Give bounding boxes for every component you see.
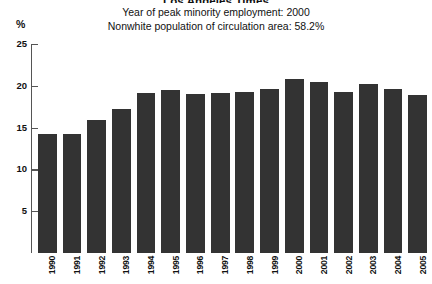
plot-area: 510152025 bbox=[31, 44, 430, 253]
bar-slot bbox=[35, 44, 60, 253]
x-axis-label-1993: 1993 bbox=[121, 256, 131, 274]
bar-1998 bbox=[235, 92, 254, 253]
bar-1997 bbox=[211, 93, 230, 253]
bar-slot bbox=[60, 44, 85, 253]
bar-slot bbox=[208, 44, 233, 253]
bar-slot bbox=[109, 44, 134, 253]
bar-1990 bbox=[38, 134, 57, 253]
x-axis-label-1992: 1992 bbox=[97, 256, 107, 274]
y-tick-label: 15 bbox=[16, 122, 27, 133]
x-axis-label-2001: 2001 bbox=[319, 256, 329, 274]
x-axis-label-1994: 1994 bbox=[146, 256, 156, 274]
bar-slot bbox=[158, 44, 183, 253]
y-tick-label: 20 bbox=[16, 80, 27, 91]
bar-1993 bbox=[112, 109, 131, 253]
x-axis-label-1999: 1999 bbox=[270, 256, 280, 274]
bar-slot bbox=[381, 44, 406, 253]
x-label-slot: 2001 bbox=[307, 254, 332, 284]
bar-slot bbox=[282, 44, 307, 253]
bar-slot bbox=[307, 44, 332, 253]
y-tick-label: 5 bbox=[22, 205, 27, 216]
x-label-slot: 2002 bbox=[331, 254, 356, 284]
x-label-slot: 1990 bbox=[35, 254, 60, 284]
bar-2000 bbox=[285, 79, 304, 253]
x-axis-label-1997: 1997 bbox=[220, 256, 230, 274]
x-label-slot: 1991 bbox=[60, 254, 85, 284]
bar-1991 bbox=[63, 134, 82, 253]
x-label-slot: 2004 bbox=[381, 254, 406, 284]
y-tick-label: 10 bbox=[16, 163, 27, 174]
chart-header: Los Angeles Times Year of peak minority … bbox=[0, 0, 432, 7]
y-axis-line bbox=[31, 44, 32, 253]
x-axis-labels: 1990199119921993199419951996199719981999… bbox=[35, 254, 430, 284]
bar-slot bbox=[183, 44, 208, 253]
x-axis-label-1990: 1990 bbox=[47, 256, 57, 274]
x-label-slot: 2005 bbox=[405, 254, 430, 284]
x-axis-label-1991: 1991 bbox=[72, 256, 82, 274]
bar-slot bbox=[233, 44, 258, 253]
y-tick-label: 25 bbox=[16, 38, 27, 49]
chart-title: Los Angeles Times bbox=[0, 0, 432, 3]
x-label-slot: 1993 bbox=[109, 254, 134, 284]
x-label-slot: 1997 bbox=[208, 254, 233, 284]
x-label-slot: 1995 bbox=[158, 254, 183, 284]
bar-1992 bbox=[87, 120, 106, 253]
bar-1995 bbox=[161, 90, 180, 253]
chart-page: Los Angeles Times Year of peak minority … bbox=[0, 0, 432, 284]
x-label-slot: 2003 bbox=[356, 254, 381, 284]
chart-subtitle-peak-employment: Year of peak minority employment: 2000 bbox=[0, 6, 432, 19]
bar-series bbox=[35, 44, 430, 253]
x-label-slot: 1998 bbox=[233, 254, 258, 284]
bar-2001 bbox=[310, 82, 329, 253]
x-axis-label-2005: 2005 bbox=[418, 256, 428, 274]
bar-2003 bbox=[359, 84, 378, 253]
x-label-slot: 2000 bbox=[282, 254, 307, 284]
x-axis-label-1996: 1996 bbox=[195, 256, 205, 274]
bar-slot bbox=[405, 44, 430, 253]
x-axis-label-2000: 2000 bbox=[294, 256, 304, 274]
bar-1999 bbox=[260, 89, 279, 253]
x-axis-label-2004: 2004 bbox=[393, 256, 403, 274]
bar-slot bbox=[331, 44, 356, 253]
bar-1996 bbox=[186, 94, 205, 253]
x-label-slot: 1994 bbox=[134, 254, 159, 284]
bar-slot bbox=[356, 44, 381, 253]
x-axis-label-2002: 2002 bbox=[344, 256, 354, 274]
bar-slot bbox=[84, 44, 109, 253]
x-label-slot: 1992 bbox=[84, 254, 109, 284]
x-label-slot: 1999 bbox=[257, 254, 282, 284]
x-axis-label-2003: 2003 bbox=[368, 256, 378, 274]
bar-slot bbox=[134, 44, 159, 253]
bar-2004 bbox=[384, 89, 403, 253]
bar-1994 bbox=[137, 93, 156, 254]
x-axis-label-1998: 1998 bbox=[245, 256, 255, 274]
x-axis-label-1995: 1995 bbox=[171, 256, 181, 274]
y-axis-unit-label: % bbox=[16, 18, 25, 30]
x-label-slot: 1996 bbox=[183, 254, 208, 284]
bar-2005 bbox=[408, 95, 427, 253]
chart-subtitle-nonwhite-population: Nonwhite population of circulation area:… bbox=[0, 20, 432, 33]
bar-slot bbox=[257, 44, 282, 253]
bar-2002 bbox=[334, 92, 353, 253]
